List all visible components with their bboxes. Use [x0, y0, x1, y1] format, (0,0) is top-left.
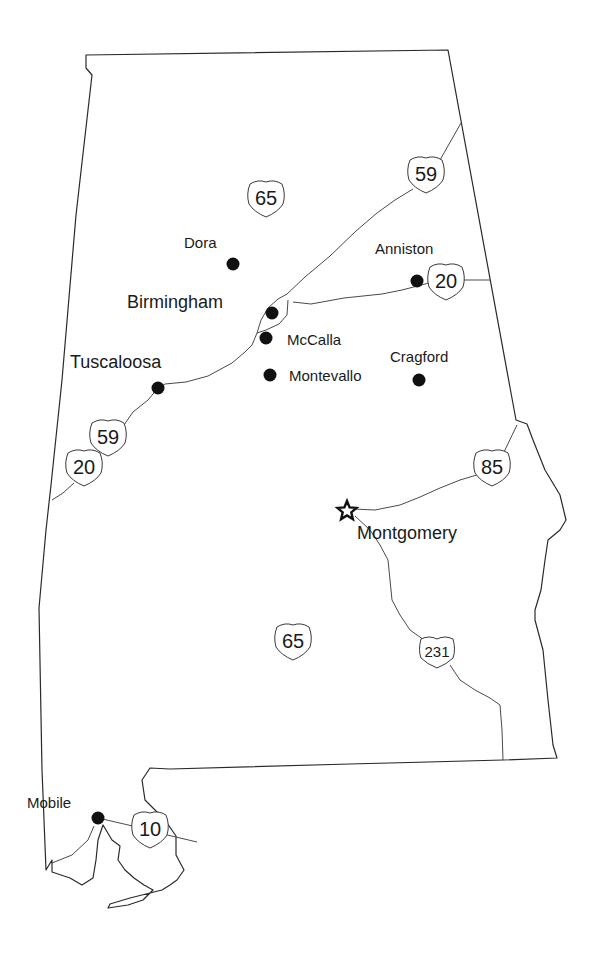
city-dot-icon — [152, 382, 165, 395]
mobile-road — [52, 826, 94, 863]
city-dot-icon — [260, 332, 273, 345]
us-shield-231: 231 — [420, 637, 455, 668]
interstate-shield-85: 85 — [474, 450, 511, 486]
city-label: Birmingham — [127, 292, 223, 312]
i20-southwest-segment — [52, 483, 74, 500]
city-dot-icon — [264, 369, 277, 382]
interstate-shield-65: 65 — [275, 624, 312, 660]
city-mobile: Mobile — [27, 794, 105, 825]
city-tuscaloosa: Tuscaloosa — [70, 352, 165, 395]
city-birmingham: Birmingham — [127, 292, 279, 320]
city-label: Montevallo — [289, 367, 362, 384]
alabama-map: 6559205920856523110 DoraAnnistonBirmingh… — [0, 0, 599, 971]
capital-star-icon — [338, 501, 357, 519]
interstate-shield-10: 10 — [132, 812, 169, 848]
shield-number: 231 — [424, 643, 449, 660]
city-label: McCalla — [287, 331, 342, 348]
city-anniston: Anniston — [375, 240, 433, 288]
shield-number: 10 — [139, 818, 161, 840]
city-label: Dora — [184, 234, 217, 251]
shield-number: 65 — [282, 630, 304, 652]
shield-number: 59 — [415, 163, 437, 185]
capital-marker: Montgomery — [338, 501, 458, 543]
interstate-shield-20: 20 — [428, 264, 465, 300]
city-dot-icon — [411, 275, 424, 288]
interstate-shield-20: 20 — [66, 450, 103, 486]
city-dot-icon — [266, 307, 279, 320]
interstate-shield-65: 65 — [248, 181, 285, 217]
city-label: Mobile — [27, 794, 71, 811]
city-label: Anniston — [375, 240, 433, 257]
capital-label: Montgomery — [357, 523, 457, 543]
shield-number: 20 — [435, 270, 457, 292]
shield-number: 59 — [97, 426, 119, 448]
i59-northeast — [440, 123, 461, 160]
city-dora: Dora — [184, 234, 240, 271]
city-montevallo: Montevallo — [264, 367, 362, 384]
shield-number: 85 — [481, 456, 503, 478]
highway-shields: 6559205920856523110 — [66, 157, 511, 848]
shield-number: 20 — [73, 456, 95, 478]
interstate-shield-59: 59 — [408, 157, 445, 193]
city-dot-icon — [92, 812, 105, 825]
city-cragford: Cragford — [390, 348, 448, 387]
i59-i20-southwest — [124, 333, 257, 425]
shield-number: 65 — [255, 187, 277, 209]
city-dot-icon — [413, 374, 426, 387]
city-dot-icon — [227, 258, 240, 271]
city-mccalla: McCalla — [260, 331, 342, 348]
city-label: Tuscaloosa — [70, 352, 162, 372]
city-label: Cragford — [390, 348, 448, 365]
